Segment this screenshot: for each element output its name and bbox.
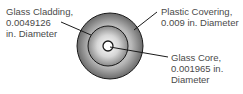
glass-core-circle — [103, 41, 113, 51]
plastic-label-line2: 0.009 in. Diameter — [161, 17, 239, 28]
plastic-label-line1: Plastic Covering, — [161, 6, 239, 17]
plastic-leader-line — [134, 12, 157, 30]
core-label-line2: 0.001965 in. — [171, 63, 223, 74]
core-label-line3: Diameter — [171, 74, 223, 85]
cladding-label-line1: Glass Cladding, — [6, 6, 73, 17]
plastic-label: Plastic Covering, 0.009 in. Diameter — [161, 6, 239, 28]
cladding-label-line2: 0.0049126 — [6, 17, 73, 28]
cladding-label: Glass Cladding, 0.0049126 in. Diameter — [6, 6, 73, 39]
core-label-line1: Glass Core, — [171, 52, 223, 63]
cladding-label-line3: in. Diameter — [6, 28, 73, 39]
core-label: Glass Core, 0.001965 in. Diameter — [171, 52, 223, 85]
